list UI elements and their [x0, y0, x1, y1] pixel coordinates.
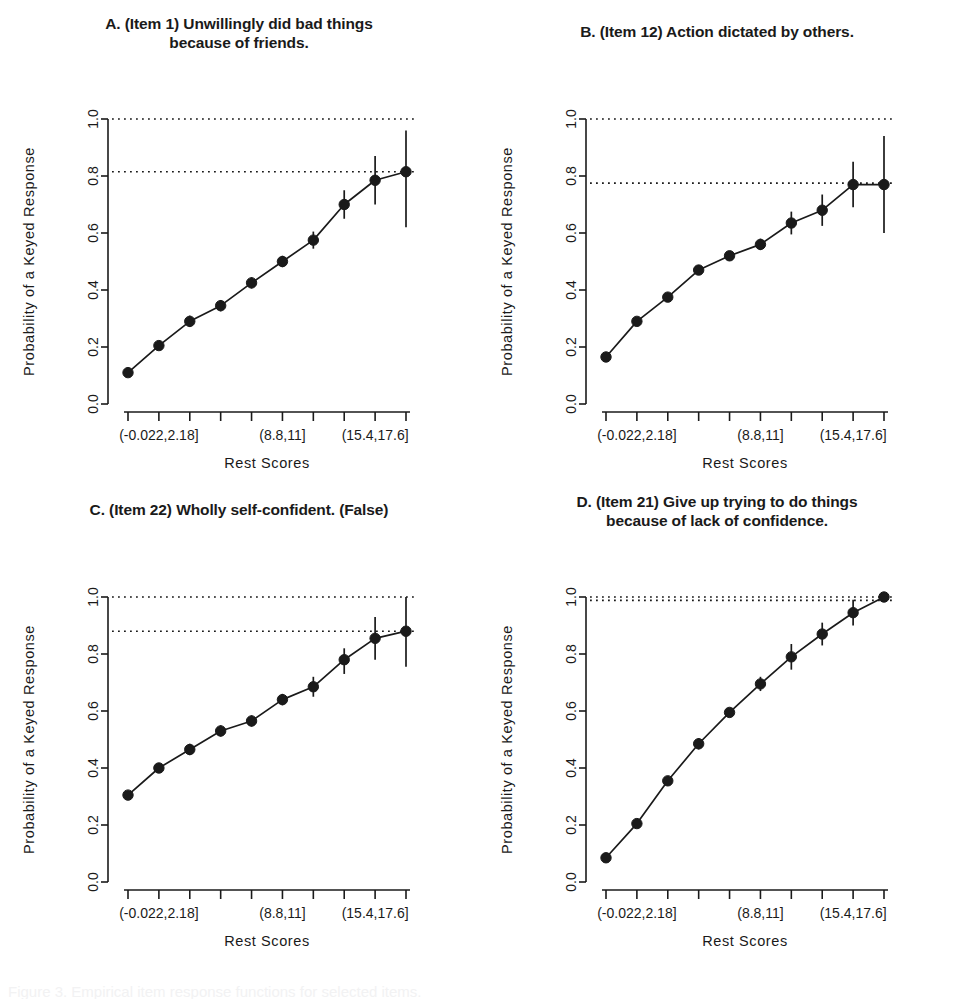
x-category-label: (-0.022,2.18]: [119, 905, 198, 921]
y-axis-title: Probability of a Keyed Response: [21, 625, 37, 854]
x-category-label: (-0.022,2.18]: [597, 905, 676, 921]
x-axis-title: Rest Scores: [702, 933, 788, 949]
data-point: [185, 744, 195, 754]
y-axis-title: Probability of a Keyed Response: [21, 147, 37, 376]
y-tick-label: 0.2: [85, 337, 101, 357]
x-category-label: (15.4,17.6]: [342, 427, 409, 443]
data-point: [401, 167, 411, 177]
panel-b-plot: 0.00.20.40.60.81.0Probability of a Keyed…: [478, 0, 956, 478]
y-tick-label: 1.0: [85, 587, 101, 607]
y-tick-label: 0.2: [85, 815, 101, 835]
series-line: [606, 597, 884, 858]
x-category-label: (-0.022,2.18]: [119, 427, 198, 443]
y-tick-label: 0.6: [563, 223, 579, 243]
y-tick-label: 1.0: [563, 109, 579, 129]
x-category-label: (8.8,11]: [259, 905, 305, 921]
data-point: [215, 300, 225, 310]
y-tick-label: 1.0: [563, 587, 579, 607]
y-tick-label: 0.8: [85, 644, 101, 664]
x-category-label: (15.4,17.6]: [820, 905, 887, 921]
data-point: [817, 629, 827, 639]
data-point: [693, 265, 703, 275]
data-point: [154, 763, 164, 773]
panel-b: B. (Item 12) Action dictated by others. …: [478, 0, 956, 478]
data-point: [401, 626, 411, 636]
data-point: [755, 679, 765, 689]
y-tick-label: 0.8: [563, 166, 579, 186]
panel-c: C. (Item 22) Wholly self-confident. (Fal…: [0, 478, 478, 956]
data-point: [277, 694, 287, 704]
x-category-label: (-0.022,2.18]: [597, 427, 676, 443]
data-point: [724, 707, 734, 717]
x-category-label: (8.8,11]: [259, 427, 305, 443]
data-point: [308, 682, 318, 692]
panel-c-svg: 0.00.20.40.60.81.0Probability of a Keyed…: [0, 478, 478, 956]
data-point: [724, 251, 734, 261]
y-tick-label: 0.6: [563, 701, 579, 721]
data-point: [154, 340, 164, 350]
data-point: [817, 205, 827, 215]
series-line: [128, 172, 406, 373]
data-point: [663, 776, 673, 786]
data-point: [879, 179, 889, 189]
y-tick-label: 0.0: [563, 872, 579, 892]
data-point: [308, 235, 318, 245]
x-axis-title: Rest Scores: [224, 455, 310, 471]
y-tick-label: 0.6: [85, 223, 101, 243]
x-category-label: (15.4,17.6]: [342, 905, 409, 921]
x-axis-title: Rest Scores: [702, 455, 788, 471]
panel-a-plot: 0.00.20.40.60.81.0Probability of a Keyed…: [0, 0, 478, 478]
panel-d: D. (Item 21) Give up trying to do things…: [478, 478, 956, 956]
data-point: [246, 716, 256, 726]
data-point: [370, 175, 380, 185]
data-point: [601, 853, 611, 863]
series-line: [606, 185, 884, 357]
figure-caption: Figure 3. Empirical item response functi…: [0, 977, 956, 999]
y-tick-label: 0.8: [85, 166, 101, 186]
data-point: [663, 292, 673, 302]
figure-caption-strip: Figure 3. Empirical item response functi…: [0, 977, 956, 999]
panel-b-svg: 0.00.20.40.60.81.0Probability of a Keyed…: [478, 0, 956, 478]
y-tick-label: 0.0: [85, 394, 101, 414]
data-point: [755, 239, 765, 249]
data-point: [879, 592, 889, 602]
data-point: [277, 256, 287, 266]
y-tick-label: 0.0: [563, 394, 579, 414]
data-point: [185, 316, 195, 326]
y-axis-title: Probability of a Keyed Response: [499, 625, 515, 854]
data-point: [632, 818, 642, 828]
y-tick-label: 0.8: [563, 644, 579, 664]
data-point: [632, 316, 642, 326]
data-point: [786, 218, 796, 228]
x-category-label: (8.8,11]: [737, 905, 783, 921]
y-tick-label: 0.2: [563, 815, 579, 835]
panel-d-plot: 0.00.20.40.60.81.0Probability of a Keyed…: [478, 478, 956, 956]
panel-a-svg: 0.00.20.40.60.81.0Probability of a Keyed…: [0, 0, 478, 478]
y-tick-label: 0.4: [563, 280, 579, 300]
y-tick-label: 0.0: [85, 872, 101, 892]
data-point: [848, 607, 858, 617]
y-tick-label: 0.6: [85, 701, 101, 721]
panel-a: A. (Item 1) Unwillingly did bad things b…: [0, 0, 478, 478]
panel-c-plot: 0.00.20.40.60.81.0Probability of a Keyed…: [0, 478, 478, 956]
data-point: [786, 652, 796, 662]
panel-d-svg: 0.00.20.40.60.81.0Probability of a Keyed…: [478, 478, 956, 956]
series-line: [128, 631, 406, 795]
data-point: [339, 655, 349, 665]
data-point: [123, 790, 133, 800]
y-axis-title: Probability of a Keyed Response: [499, 147, 515, 376]
data-point: [123, 367, 133, 377]
data-point: [339, 199, 349, 209]
figure-panel-grid: A. (Item 1) Unwillingly did bad things b…: [0, 0, 956, 999]
x-category-label: (8.8,11]: [737, 427, 783, 443]
x-category-label: (15.4,17.6]: [820, 427, 887, 443]
data-point: [215, 726, 225, 736]
y-tick-label: 0.4: [563, 758, 579, 778]
data-point: [370, 633, 380, 643]
y-tick-label: 0.4: [85, 280, 101, 300]
data-point: [601, 352, 611, 362]
x-axis-title: Rest Scores: [224, 933, 310, 949]
data-point: [246, 278, 256, 288]
y-tick-label: 1.0: [85, 109, 101, 129]
data-point: [848, 179, 858, 189]
